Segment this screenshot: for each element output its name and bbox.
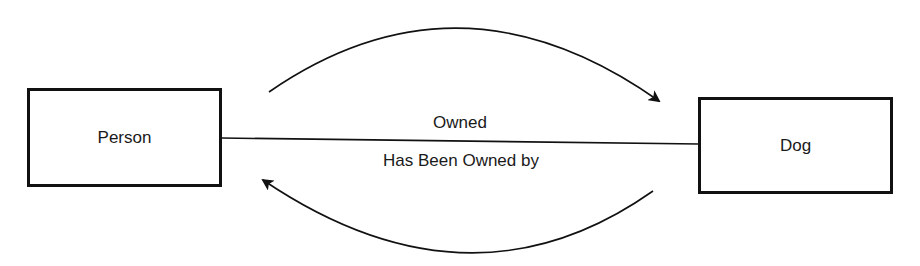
relationship-line [221,138,699,144]
entity-dog-label: Dog [780,136,811,156]
entity-person: Person [27,88,222,187]
reverse-arrow [263,180,653,253]
forward-relationship-label: Owned [433,113,487,133]
entity-person-label: Person [98,128,152,148]
forward-arrow [269,28,659,101]
reverse-relationship-label: Has Been Owned by [383,151,539,171]
entity-dog: Dog [698,97,893,194]
